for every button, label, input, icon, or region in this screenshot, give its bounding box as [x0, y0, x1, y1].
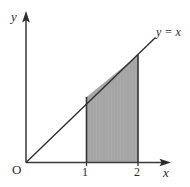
x-axis-label: x — [163, 166, 169, 179]
y-axis-label: y — [11, 10, 17, 23]
figure-canvas: y x O y = x 1 2 — [0, 0, 190, 187]
x-tick-label-2: 2 — [134, 166, 140, 178]
line-equation-label: y = x — [156, 26, 181, 38]
shaded-region-under-line — [87, 55, 139, 163]
origin-label: O — [12, 163, 21, 176]
x-tick-label-1: 1 — [82, 166, 88, 178]
